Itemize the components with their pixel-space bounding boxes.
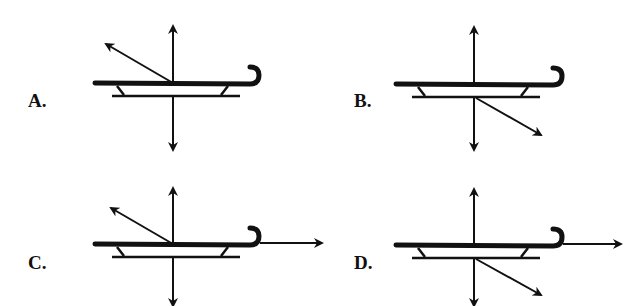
skate-icon	[95, 228, 259, 257]
option-c-diagram	[95, 188, 322, 306]
skate-icon	[396, 68, 562, 97]
skate-icon	[396, 229, 562, 258]
skate-icon	[95, 67, 259, 96]
arrow-up-left	[111, 208, 173, 244]
option-b-diagram	[396, 27, 562, 150]
arrow-down-right	[476, 98, 541, 135]
skate-force-diagrams	[0, 0, 638, 306]
arrow-down-right	[476, 259, 541, 295]
option-a-diagram	[95, 26, 259, 150]
option-c-label: C.	[28, 252, 46, 274]
option-d-label: D.	[354, 252, 372, 274]
option-d-diagram	[396, 189, 621, 306]
option-a-label: A.	[28, 90, 46, 112]
option-b-label: B.	[354, 90, 371, 112]
arrow-up-left	[106, 44, 173, 83]
